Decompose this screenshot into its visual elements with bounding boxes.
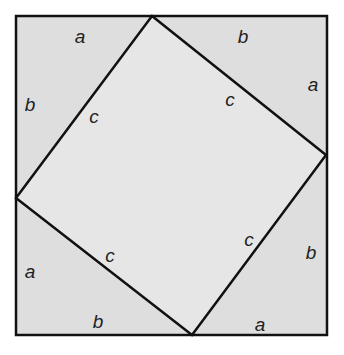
diagram-svg <box>0 0 344 355</box>
pythagorean-diagram: abbaccccabba <box>0 0 344 355</box>
label-right-a: a <box>308 75 319 94</box>
label-top-b: b <box>238 27 249 46</box>
label-c-top-left: c <box>89 107 99 126</box>
label-bottom-a: a <box>255 315 266 334</box>
label-left-a: a <box>25 262 36 281</box>
label-bottom-b: b <box>93 312 104 331</box>
label-top-a: a <box>75 27 86 46</box>
label-right-b: b <box>306 243 317 262</box>
label-left-b: b <box>25 95 36 114</box>
label-c-bottom-left: c <box>105 246 115 265</box>
label-c-bottom-right: c <box>244 230 254 249</box>
label-c-top-right: c <box>225 90 235 109</box>
